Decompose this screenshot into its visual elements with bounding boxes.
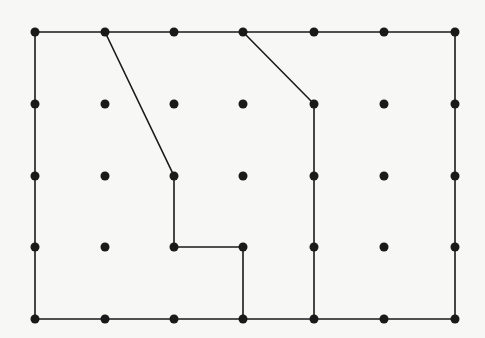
- grid-dot: [380, 28, 389, 37]
- grid-dot: [170, 315, 179, 324]
- grid-dot: [101, 315, 110, 324]
- grid-dot: [170, 243, 179, 252]
- grid-dot: [101, 100, 110, 109]
- grid-dot: [239, 315, 248, 324]
- grid-dot: [170, 100, 179, 109]
- grid-dot: [310, 315, 319, 324]
- grid-dot: [451, 100, 460, 109]
- grid-dot: [451, 28, 460, 37]
- grid-dot: [380, 172, 389, 181]
- grid-dot: [451, 172, 460, 181]
- grid-dot: [310, 172, 319, 181]
- right-region-boundary: [243, 32, 314, 319]
- grid-dot: [310, 28, 319, 37]
- grid-dot: [31, 100, 40, 109]
- grid-dot: [380, 100, 389, 109]
- grid-dots: [31, 28, 460, 324]
- grid-dot: [239, 243, 248, 252]
- grid-dot: [170, 172, 179, 181]
- grid-dot: [380, 315, 389, 324]
- grid-dot: [31, 243, 40, 252]
- dot-grid-diagram: [0, 0, 485, 338]
- grid-dot: [170, 28, 179, 37]
- grid-dot: [380, 243, 389, 252]
- grid-dot: [31, 28, 40, 37]
- grid-dot: [31, 315, 40, 324]
- grid-dot: [310, 243, 319, 252]
- grid-dot: [239, 100, 248, 109]
- grid-dot: [101, 28, 110, 37]
- grid-dot: [101, 172, 110, 181]
- grid-dot: [31, 172, 40, 181]
- grid-dot: [310, 100, 319, 109]
- grid-dot: [239, 172, 248, 181]
- grid-dot: [451, 243, 460, 252]
- grid-dot: [451, 315, 460, 324]
- grid-dot: [239, 28, 248, 37]
- grid-dot: [101, 243, 110, 252]
